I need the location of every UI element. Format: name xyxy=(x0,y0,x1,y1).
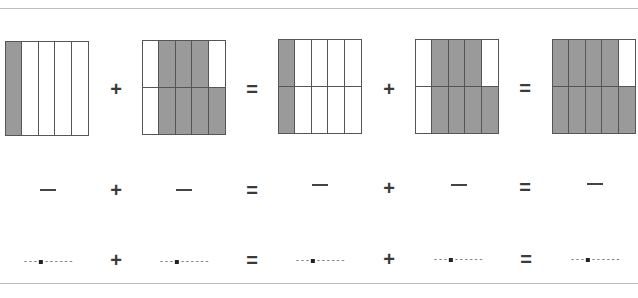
area-model-5 xyxy=(552,39,636,134)
unshaded-cell xyxy=(72,42,88,135)
shaded-cell xyxy=(432,40,448,87)
top-rule xyxy=(0,8,638,9)
equals-sign: = xyxy=(519,177,531,197)
shaded-cell xyxy=(586,40,602,87)
shaded-cell xyxy=(209,88,225,135)
unshaded-cell xyxy=(312,87,328,134)
area-model-1 xyxy=(5,41,89,136)
unshaded-cell xyxy=(328,40,344,87)
decimal-blank-4[interactable]: --------- xyxy=(433,254,483,264)
decimal-part: ------ xyxy=(180,256,210,266)
unshaded-cell xyxy=(619,40,635,87)
plus-sign: + xyxy=(110,250,122,270)
equals-sign: = xyxy=(520,249,532,269)
decimal-point xyxy=(311,259,315,263)
fraction-blank-1[interactable] xyxy=(40,189,56,191)
shaded-cell xyxy=(159,41,175,88)
shaded-cell xyxy=(553,40,569,87)
fraction-blank-2[interactable] xyxy=(176,189,192,191)
equals-sign: = xyxy=(246,180,258,200)
decimal-blank-1[interactable]: --------- xyxy=(23,256,73,266)
shaded-cell xyxy=(192,88,208,135)
unshaded-cell xyxy=(143,41,159,88)
area-model-3 xyxy=(278,39,362,134)
equals-sign: = xyxy=(519,78,531,98)
decimal-blank-2[interactable]: --------- xyxy=(159,256,209,266)
shaded-cell xyxy=(602,87,618,134)
unshaded-cell xyxy=(416,40,432,87)
shaded-cell xyxy=(432,87,448,134)
shaded-cell xyxy=(619,87,635,134)
decimal-point xyxy=(449,258,453,262)
fraction-blank-3[interactable] xyxy=(312,184,328,186)
unshaded-cell xyxy=(295,40,311,87)
shaded-cell xyxy=(159,88,175,135)
shaded-cell xyxy=(6,42,22,135)
decimal-part: ------ xyxy=(44,256,74,266)
unshaded-cell xyxy=(39,42,55,135)
shaded-cell xyxy=(279,40,295,87)
decimal-part: ------ xyxy=(591,254,621,264)
unshaded-cell xyxy=(328,87,344,134)
whole-part: --- xyxy=(570,254,585,264)
decimal-point xyxy=(586,258,590,262)
plus-sign: + xyxy=(110,79,122,99)
shaded-cell xyxy=(602,40,618,87)
unshaded-cell xyxy=(312,40,328,87)
unshaded-cell xyxy=(482,40,498,87)
unshaded-cell xyxy=(416,87,432,134)
equals-sign: = xyxy=(246,250,258,270)
shaded-cell xyxy=(449,87,465,134)
unshaded-cell xyxy=(143,88,159,135)
shaded-cell xyxy=(279,87,295,134)
shaded-cell xyxy=(449,40,465,87)
shaded-cell xyxy=(586,87,602,134)
unshaded-cell xyxy=(22,42,38,135)
whole-part: --- xyxy=(433,254,448,264)
shaded-cell xyxy=(569,87,585,134)
plus-sign: + xyxy=(383,79,395,99)
decimal-point xyxy=(175,260,179,264)
decimal-part: ------ xyxy=(454,254,484,264)
unshaded-cell xyxy=(345,40,361,87)
shaded-cell xyxy=(553,87,569,134)
plus-sign: + xyxy=(110,180,122,200)
decimal-blank-5[interactable]: --------- xyxy=(570,254,620,264)
fraction-blank-5[interactable] xyxy=(587,183,603,185)
whole-part: --- xyxy=(295,255,310,265)
plus-sign: + xyxy=(383,249,395,269)
shaded-cell xyxy=(176,88,192,135)
plus-sign: + xyxy=(383,178,395,198)
shaded-cell xyxy=(176,41,192,88)
shaded-cell xyxy=(192,41,208,88)
decimal-blank-3[interactable]: --------- xyxy=(295,255,345,265)
unshaded-cell xyxy=(209,41,225,88)
shaded-cell xyxy=(482,87,498,134)
decimal-point xyxy=(39,260,43,264)
equals-sign: = xyxy=(246,79,258,99)
unshaded-cell xyxy=(295,87,311,134)
shaded-cell xyxy=(465,87,481,134)
whole-part: --- xyxy=(23,256,38,266)
area-model-2 xyxy=(142,40,226,135)
shaded-cell xyxy=(465,40,481,87)
unshaded-cell xyxy=(55,42,71,135)
unshaded-cell xyxy=(345,87,361,134)
decimal-part: ------ xyxy=(316,255,346,265)
whole-part: --- xyxy=(159,256,174,266)
area-model-4 xyxy=(415,39,499,134)
bottom-rule xyxy=(0,283,638,284)
shaded-cell xyxy=(569,40,585,87)
fraction-blank-4[interactable] xyxy=(451,184,467,186)
